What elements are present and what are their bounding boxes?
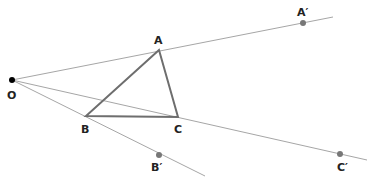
ray-oc [12, 80, 367, 160]
label-b: B [81, 123, 89, 136]
point-a-prime [300, 20, 306, 26]
ray-oa [12, 17, 333, 80]
label-c: C [174, 123, 182, 136]
dilation-diagram: O A B C A′ B′ C′ [0, 0, 371, 181]
point-b-prime [156, 152, 162, 158]
label-a-prime: A′ [297, 6, 309, 19]
label-b-prime: B′ [151, 161, 162, 174]
center-point-o [9, 77, 15, 83]
label-c-prime: C′ [337, 161, 348, 174]
label-a: A [154, 34, 163, 47]
label-o: O [7, 89, 16, 102]
point-c-prime [337, 151, 343, 157]
